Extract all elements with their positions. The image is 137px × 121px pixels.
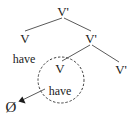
node-left-v: V [20,32,29,45]
movement-arrow-shaft [22,89,45,100]
node-left-word-have: have [13,53,36,65]
movement-arrow-head [18,97,25,104]
node-root-vbar: V' [57,5,69,18]
branch-root-to-mid-vbar [64,18,91,31]
syntax-tree-diagram: V' V V' have V have V' Ø [0,0,137,121]
node-right-vbar: V' [115,63,127,76]
node-trace-word-have: have [49,85,72,97]
branch-root-to-left-v [25,18,62,31]
movement-arrow [18,89,45,103]
branch-lines [25,18,119,62]
branch-mid-vbar-to-trace-v [62,45,90,61]
node-mid-vbar: V' [85,32,97,45]
node-trace-v: V [55,62,64,75]
node-null-element: Ø [6,100,17,115]
branch-mid-vbar-to-right-vbar [92,45,119,62]
